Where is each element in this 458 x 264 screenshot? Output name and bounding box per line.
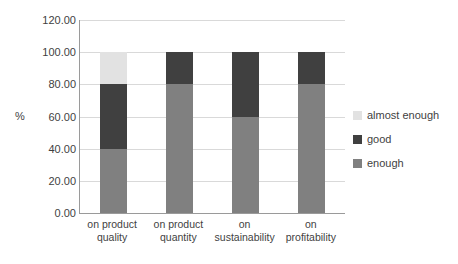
legend-item[interactable]: enough xyxy=(353,151,453,175)
y-axis-tick-label: 0.00 xyxy=(20,208,76,219)
legend-swatch-icon xyxy=(353,159,362,168)
x-axis-category-label-line: quality xyxy=(76,231,148,244)
legend: almost enoughgoodenough xyxy=(353,103,453,175)
bar-group[interactable] xyxy=(100,20,127,213)
legend-label: enough xyxy=(367,157,404,169)
x-axis-category-label: onprofitability xyxy=(275,218,347,244)
bar-segment[interactable] xyxy=(100,149,127,213)
x-axis-category-label-line: quantity xyxy=(142,231,214,244)
y-axis-tick-label: 100.00 xyxy=(20,47,76,58)
y-axis-tick-label: 20.00 xyxy=(20,176,76,187)
x-axis-category-labels: on productqualityon productquantityonsus… xyxy=(79,218,349,258)
x-axis-category-label-line: sustainability xyxy=(209,231,281,244)
bar-segment[interactable] xyxy=(166,52,193,84)
bar-group[interactable] xyxy=(166,20,193,213)
legend-item[interactable]: almost enough xyxy=(353,103,453,127)
y-axis-tick-label: 60.00 xyxy=(20,112,76,123)
bars-layer xyxy=(80,20,345,213)
bar-segment[interactable] xyxy=(298,84,325,213)
legend-swatch-icon xyxy=(353,111,362,120)
bar-segment[interactable] xyxy=(232,52,259,116)
stacked-bar-chart: % 0.0020.0040.0060.0080.00100.00120.00 o… xyxy=(0,0,458,264)
legend-swatch-icon xyxy=(353,135,362,144)
y-axis-tick-label: 80.00 xyxy=(20,79,76,90)
bar-segment[interactable] xyxy=(166,84,193,213)
x-axis-category-label-line: on product xyxy=(76,218,148,231)
bar-segment[interactable] xyxy=(298,52,325,84)
bar-segment[interactable] xyxy=(232,117,259,214)
y-axis-tick-labels: 0.0020.0040.0060.0080.00100.00120.00 xyxy=(20,0,76,264)
legend-item[interactable]: good xyxy=(353,127,453,151)
bar-segment[interactable] xyxy=(100,52,127,84)
x-axis-category-label-line: on product xyxy=(142,218,214,231)
y-axis-tick-label: 120.00 xyxy=(20,15,76,26)
x-axis-category-label-line: on xyxy=(275,218,347,231)
y-axis-tick-label: 40.00 xyxy=(20,144,76,155)
x-axis-category-label-line: profitability xyxy=(275,231,347,244)
x-axis-category-label: onsustainability xyxy=(209,218,281,244)
legend-label: good xyxy=(367,133,391,145)
legend-label: almost enough xyxy=(367,109,439,121)
x-axis-category-label: on productquality xyxy=(76,218,148,244)
bar-segment[interactable] xyxy=(100,84,127,148)
bar-group[interactable] xyxy=(232,20,259,213)
bar-group[interactable] xyxy=(298,20,325,213)
x-axis-category-label-line: on xyxy=(209,218,281,231)
plot-area xyxy=(79,20,345,214)
x-axis-category-label: on productquantity xyxy=(142,218,214,244)
